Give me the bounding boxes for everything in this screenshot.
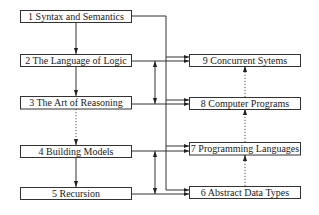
node-4: 4 Building Models — [21, 146, 132, 158]
node-8: 8 Computer Programs — [190, 98, 301, 110]
node-3-label: 3 The Art of Reasoning — [29, 97, 123, 108]
node-6-label: 6 Abstract Data Types — [201, 187, 289, 198]
node-7-label: 7 Programming Languages — [191, 143, 299, 154]
node-9: 9 Concurrent Sytems — [190, 55, 301, 67]
node-2: 2 The Language of Logic — [21, 55, 132, 67]
cross-edges — [132, 16, 189, 194]
node-1: 1 Syntax and Semantics — [21, 11, 132, 23]
node-4-label: 4 Building Models — [38, 146, 113, 157]
node-3: 3 The Art of Reasoning — [21, 97, 132, 110]
node-6: 6 Abstract Data Types — [190, 187, 301, 199]
node-9-label: 9 Concurrent Sytems — [203, 55, 288, 66]
node-7: 7 Programming Languages — [190, 143, 301, 156]
chapter-dependency-diagram: 1 Syntax and Semantics 2 The Language of… — [0, 0, 319, 215]
node-8-label: 8 Computer Programs — [201, 98, 289, 109]
node-5-label: 5 Recursion — [52, 188, 100, 199]
node-2-label: 2 The Language of Logic — [25, 55, 127, 66]
node-5: 5 Recursion — [21, 188, 132, 200]
bus-from-1 — [132, 16, 166, 190]
node-1-label: 1 Syntax and Semantics — [28, 11, 124, 22]
